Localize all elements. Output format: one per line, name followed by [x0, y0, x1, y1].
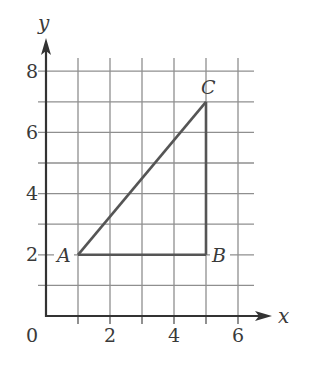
y-tick-label-6: 6: [26, 121, 38, 143]
y-tick-label-8: 8: [26, 60, 38, 82]
coordinate-plane: y x 0 2 4 6 2 4 6 8 A B C: [0, 0, 309, 367]
x-tick-label-2: 2: [104, 324, 116, 346]
x-ticks: [78, 316, 238, 324]
point-label-c: C: [201, 76, 216, 98]
origin-label: 0: [26, 324, 38, 346]
y-axis-label: y: [37, 11, 50, 35]
point-label-b: B: [211, 244, 226, 266]
point-label-a: A: [55, 244, 71, 266]
x-tick-label-4: 4: [168, 324, 180, 346]
x-axis-label: x: [278, 304, 289, 328]
x-tick-label-6: 6: [232, 324, 244, 346]
y-tick-label-4: 4: [26, 182, 38, 204]
y-tick-label-2: 2: [26, 243, 38, 265]
grid-lines: [38, 58, 254, 316]
